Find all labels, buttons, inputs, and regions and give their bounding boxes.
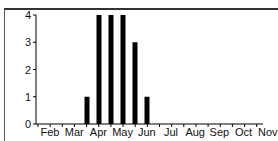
x-tick-label: Feb (41, 126, 60, 138)
bar (85, 97, 90, 124)
bar (97, 15, 102, 124)
bar (145, 97, 150, 124)
x-tick-label: Jul (164, 126, 178, 138)
y-tick-label: 1 (25, 91, 31, 103)
bar (133, 42, 138, 124)
y-tick-label: 3 (25, 36, 31, 48)
y-tick-label: 0 (25, 118, 31, 130)
y-tick-label: 2 (25, 64, 31, 76)
x-tick-label: Nov (258, 126, 278, 138)
bar (109, 15, 114, 124)
x-tick-label: Oct (235, 126, 252, 138)
x-tick-label: May (112, 126, 133, 138)
x-tick-label: Sep (210, 126, 230, 138)
x-tick-label: Aug (185, 126, 205, 138)
y-tick-label: 4 (25, 9, 31, 21)
bar (121, 15, 126, 124)
x-tick-label: Mar (65, 126, 84, 138)
x-tick-label: Jun (138, 126, 156, 138)
x-tick-label: Apr (90, 126, 107, 138)
bar-chart: 01234FebMarAprMayJunJulAugSepOctNov (0, 0, 278, 141)
